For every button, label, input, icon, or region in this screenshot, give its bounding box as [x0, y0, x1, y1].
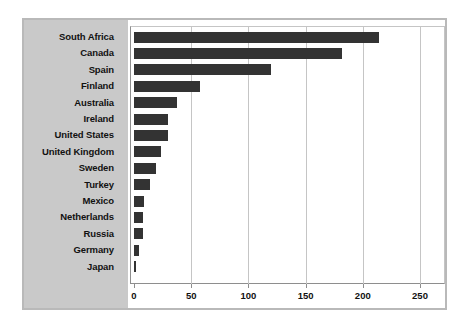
- bar: [134, 146, 161, 157]
- x-tick-label: 0: [114, 290, 154, 301]
- x-tick-label: 250: [400, 290, 440, 301]
- category-label: Mexico: [18, 193, 114, 209]
- x-tick-label: 150: [286, 290, 326, 301]
- bar: [134, 64, 271, 75]
- category-label: Netherlands: [18, 209, 114, 225]
- category-label: Turkey: [18, 177, 114, 193]
- x-tick-label: 100: [228, 290, 268, 301]
- bar: [134, 114, 168, 125]
- tick-mark-200: [363, 284, 364, 288]
- category-label: Finland: [18, 78, 114, 94]
- category-label: Sweden: [18, 160, 114, 176]
- bar-row: Germany: [24, 242, 445, 258]
- bar: [134, 228, 143, 239]
- category-label: United Kingdom: [18, 144, 114, 160]
- tick-mark-0: [134, 284, 135, 288]
- bar: [134, 245, 139, 256]
- bar-row: Japan: [24, 259, 445, 275]
- category-label: South Africa: [18, 29, 114, 45]
- x-tick-label: 200: [343, 290, 383, 301]
- bar: [134, 97, 177, 108]
- bar-row: Russia: [24, 226, 445, 242]
- bar-row: Turkey: [24, 177, 445, 193]
- category-label: Canada: [18, 45, 114, 61]
- category-label: United States: [18, 127, 114, 143]
- category-label: Ireland: [18, 111, 114, 127]
- tick-mark-150: [306, 284, 307, 288]
- bar-row: Sweden: [24, 160, 445, 176]
- bar: [134, 261, 136, 272]
- bar: [134, 212, 143, 223]
- bar: [134, 179, 150, 190]
- bar-row: Spain: [24, 62, 445, 78]
- bar: [134, 163, 156, 174]
- bar-row: South Africa: [24, 29, 445, 45]
- category-label: Spain: [18, 62, 114, 78]
- bar: [134, 81, 200, 92]
- category-label: Germany: [18, 242, 114, 258]
- bar: [134, 196, 144, 207]
- bar: [134, 32, 379, 43]
- category-label: Japan: [18, 259, 114, 275]
- bar-row: United Kingdom: [24, 144, 445, 160]
- x-tick-label: 50: [171, 290, 211, 301]
- chart-figure: South AfricaCanadaSpainFinlandAustraliaI…: [22, 18, 447, 310]
- bar: [134, 130, 168, 141]
- bar: [134, 48, 342, 59]
- bar-row: United States: [24, 127, 445, 143]
- bar-row: Mexico: [24, 193, 445, 209]
- tick-mark-100: [248, 284, 249, 288]
- tick-mark-250: [420, 284, 421, 288]
- bar-row: Canada: [24, 45, 445, 61]
- bar-row: Australia: [24, 95, 445, 111]
- category-label: Australia: [18, 95, 114, 111]
- bar-row: Ireland: [24, 111, 445, 127]
- tick-mark-50: [191, 284, 192, 288]
- category-label: Russia: [18, 226, 114, 242]
- bar-row: Netherlands: [24, 209, 445, 225]
- bar-row: Finland: [24, 78, 445, 94]
